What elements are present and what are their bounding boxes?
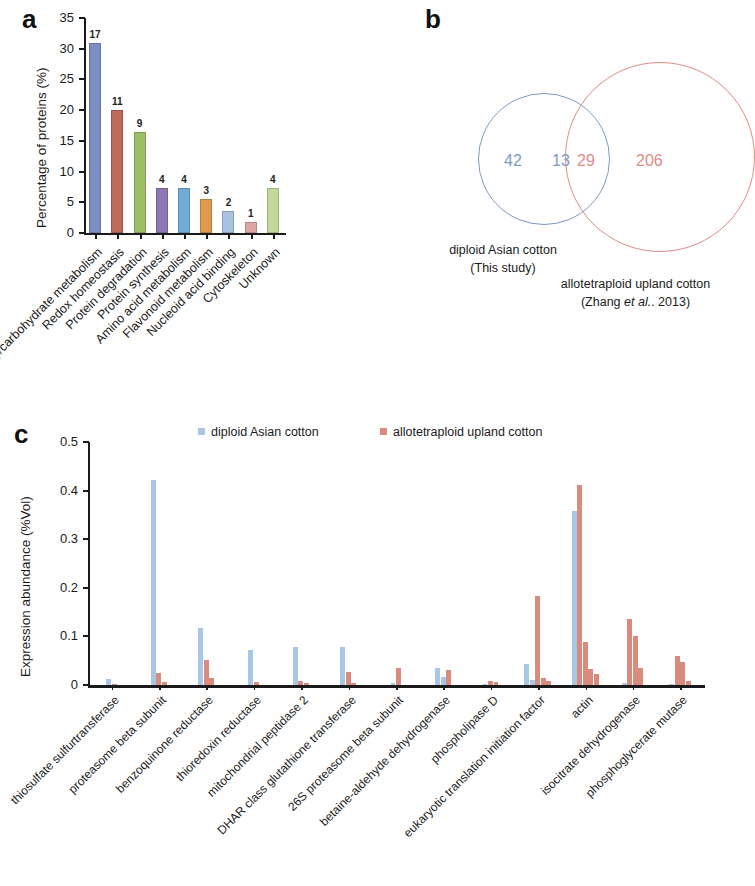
panel-c-xtick	[206, 686, 208, 690]
panel-c-bar	[293, 647, 298, 685]
panel-b-letter: b	[425, 4, 441, 35]
panel-c-bar	[298, 681, 303, 685]
panel-c-bar	[638, 668, 643, 685]
venn-caption-right-etal: et al.	[624, 295, 651, 309]
panel-c-bar	[209, 678, 214, 685]
panel-a-ytick-label: 5	[44, 194, 74, 209]
panel-a-xtick	[162, 234, 164, 239]
panel-a-xtick	[140, 234, 142, 239]
panel-c-category-label: isocitrate dehydrogenase	[463, 693, 643, 873]
panel-c-xtick	[586, 686, 588, 690]
panel-a-bar-value: 2	[215, 197, 241, 208]
panel-c-bar	[346, 672, 351, 685]
panel-c-bar	[162, 682, 167, 685]
panel-a-bar-value: 9	[127, 118, 153, 129]
panel-a-ytick	[79, 232, 85, 234]
panel-c-bar	[530, 680, 535, 685]
panel-c-bar	[588, 669, 593, 685]
venn-count-left-only: 42	[504, 152, 522, 170]
panel-c-xtick	[680, 686, 682, 690]
panel-a: a Percentage of proteins (%) 05101520253…	[0, 0, 400, 420]
panel-c-legend-label: allotetraploid upland cotton	[393, 425, 542, 439]
panel-c-legend-label: diploid Asian cotton	[211, 425, 319, 439]
panel-c-bar	[622, 683, 627, 685]
panel-c-xtick	[349, 686, 351, 690]
panel-c-category-label: phosphoglycerate mutase	[511, 693, 691, 873]
panel-c-category-label: 26S proteasome beta subunit	[226, 693, 406, 873]
panel-a-ytick-label: 10	[44, 164, 74, 179]
panel-c-ytick	[83, 587, 89, 589]
panel-a-bar	[267, 188, 279, 233]
panel-c-bar	[304, 683, 309, 685]
panel-c-category-label: mitochondrial peptidase 2	[132, 693, 312, 873]
panel-c-bar	[535, 596, 540, 685]
panel-c-xtick	[112, 686, 114, 690]
panel-c-xtick	[491, 686, 493, 690]
panel-c-bar	[488, 681, 493, 685]
panel-a-bar	[89, 43, 101, 233]
panel-c-bar	[680, 662, 685, 685]
panel-c-bar	[151, 480, 156, 685]
panel-c-bar	[572, 511, 577, 685]
panel-a-bar-value: 11	[104, 96, 130, 107]
panel-a-ytick	[79, 48, 85, 50]
panel-c-bar	[627, 619, 632, 685]
panel-c-category-label: DHAR class glutathione transferase	[179, 693, 359, 873]
panel-a-xtick	[273, 234, 275, 239]
venn-caption-right-pre: (Zhang	[581, 295, 624, 309]
panel-c-bar	[248, 650, 253, 685]
panel-a-ytick	[79, 140, 85, 142]
panel-c-xtick	[396, 686, 398, 690]
panel-c-legend-item: diploid Asian cotton	[198, 425, 319, 439]
panel-a-plot-area: 05101520253035 17119443214	[84, 18, 284, 234]
panel-a-bar	[200, 199, 212, 233]
panel-c-xtick	[443, 686, 445, 690]
panel-c-ytick-label: 0.1	[42, 628, 78, 643]
panel-c-bar	[391, 683, 396, 685]
panel-c-ytick	[83, 538, 89, 540]
panel-a-xtick	[206, 234, 208, 239]
panel-c-legend-swatch	[198, 428, 205, 435]
panel-a-ytick	[79, 109, 85, 111]
panel-c-ytick-label: 0.3	[42, 531, 78, 546]
panel-a-ytick	[79, 201, 85, 203]
panel-c-legend-item: allotetraploid upland cotton	[380, 425, 542, 439]
panel-c-bar	[435, 668, 440, 685]
panel-a-ytick-label: 0	[44, 225, 74, 240]
venn-count-right-only: 206	[636, 152, 663, 170]
panel-c-legend-swatch	[380, 428, 387, 435]
panel-c-category-label: actin	[416, 693, 596, 873]
venn-caption-right-line1: allotetraploid upland cotton	[520, 277, 751, 291]
panel-c-ytick-label: 0.5	[42, 434, 78, 449]
panel-c-bar	[156, 673, 161, 685]
panel-c-xtick	[538, 686, 540, 690]
panel-a-bar	[178, 188, 190, 233]
panel-a-bar	[245, 222, 257, 233]
panel-c-bar	[577, 485, 582, 685]
panel-a-xtick	[228, 234, 230, 239]
panel-c-bar	[112, 684, 117, 685]
panel-c-bar	[483, 684, 488, 685]
panel-c-bar	[396, 668, 401, 685]
panel-c-bar	[583, 642, 588, 685]
panel-c-category-label: thioredoxin reductase	[84, 693, 264, 873]
panel-c-xtick	[254, 686, 256, 690]
panel-c-ytick-label: 0.2	[42, 580, 78, 595]
panel-c-bar	[541, 678, 546, 685]
panel-c-bar	[198, 628, 203, 685]
panel-a-ytick-label: 25	[44, 71, 74, 86]
panel-a-xtick	[251, 234, 253, 239]
panel-c-ytick	[83, 684, 89, 686]
panel-a-ytick-label: 35	[44, 10, 74, 25]
panel-c-ylabel: Expression abundance (%Vol)	[18, 496, 33, 677]
panel-c: c Expression abundance (%Vol) diploid As…	[0, 415, 751, 886]
panel-a-ytick-label: 20	[44, 102, 74, 117]
panel-c-xtick	[301, 686, 303, 690]
panel-a-ytick-label: 15	[44, 133, 74, 148]
panel-c-category-label: phospholipase D	[321, 693, 501, 873]
panel-a-bar	[156, 188, 168, 233]
panel-a-xtick	[184, 234, 186, 239]
panel-c-bar	[524, 664, 529, 685]
panel-c-bar	[254, 682, 259, 685]
panel-c-plot-area: 00.10.20.30.40.5	[88, 442, 704, 686]
